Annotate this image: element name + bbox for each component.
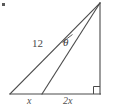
base-right-segment-label: 2x xyxy=(63,96,72,106)
hypotenuse-line xyxy=(10,3,100,94)
hypotenuse-length-label: 12 xyxy=(32,38,43,49)
base-left-segment-label: x xyxy=(27,96,31,106)
geometry-figure: 12 θ x 2x xyxy=(0,0,113,112)
angle-theta-label: θ xyxy=(63,37,68,48)
triangle-drawing xyxy=(0,0,113,112)
right-angle-marker-icon xyxy=(94,87,101,95)
cevian-line xyxy=(42,3,100,94)
